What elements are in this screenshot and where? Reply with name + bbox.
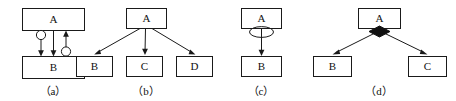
edge-d-A-to-C	[384, 33, 428, 54]
arrow-head-icon	[333, 49, 341, 54]
panel-caption: （d）	[365, 85, 393, 97]
node-box-d-C: C	[409, 57, 447, 77]
node-label: B	[329, 60, 336, 72]
panel-d: A B C （d）	[0, 0, 456, 101]
node-label: A	[376, 12, 384, 24]
node-label: C	[424, 60, 431, 72]
diagram-figure: A B （a）	[0, 0, 456, 101]
arrow-head-icon	[420, 49, 428, 54]
node-box-d-B: B	[314, 57, 352, 77]
edge-d-A-to-B	[333, 33, 376, 54]
